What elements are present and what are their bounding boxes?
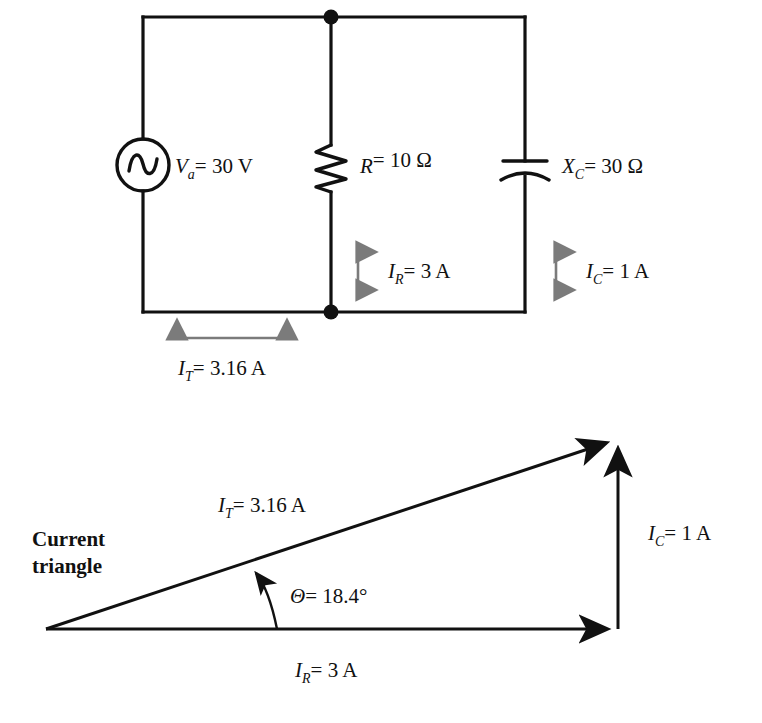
triangle-hypotenuse-label: IT= 3.16 A — [217, 493, 307, 521]
circuit-and-phasor-figure: Va= 30 V R= 10 Ω XC= 30 Ω IR= 3 A — [0, 0, 762, 723]
capacitor-label: XC= 30 Ω — [561, 154, 643, 182]
capacitor-eq: = 30 Ω — [584, 154, 643, 178]
tri-it-eq: = 3.16 A — [233, 493, 307, 517]
triangle-caption-line1: Current — [32, 527, 105, 551]
source-eq: = 30 V — [195, 154, 253, 178]
angle-label: Θ= 18.4° — [290, 584, 367, 608]
capacitor-current-label: IC= 1 A — [585, 259, 650, 287]
theta-eq: = 18.4° — [305, 584, 367, 608]
source-sub: a — [188, 167, 195, 182]
ir-eq: = 3 A — [404, 259, 452, 283]
resistor-var: R — [359, 154, 373, 178]
ir-sub: R — [394, 272, 404, 287]
tri-ir-eq: = 3 A — [311, 658, 359, 682]
angle-indicator-arrow — [256, 573, 277, 629]
bottom-junction-dot — [324, 305, 339, 320]
capacitor-var: X — [561, 154, 576, 178]
tri-ir-sub: R — [301, 671, 311, 686]
ic-eq: = 1 A — [602, 259, 650, 283]
resistor-eq: = 10 Ω — [373, 148, 432, 172]
source-label: Va= 30 V — [175, 154, 253, 182]
triangle-caption-line2: triangle — [32, 554, 102, 578]
total-current-label: IT= 3.16 A — [177, 356, 267, 384]
resistor-icon — [316, 145, 346, 192]
ac-source-icon — [117, 139, 169, 191]
resistor-current-label: IR= 3 A — [387, 259, 451, 287]
top-junction-dot — [324, 10, 339, 25]
triangle-vertical-label: IC= 1 A — [647, 521, 712, 549]
triangle-base-label: IR= 3 A — [294, 658, 358, 686]
theta-symbol: Θ — [290, 584, 305, 608]
resistor-label: R= 10 Ω — [359, 148, 432, 178]
it-eq: = 3.16 A — [193, 356, 267, 380]
tri-ic-eq: = 1 A — [664, 521, 712, 545]
